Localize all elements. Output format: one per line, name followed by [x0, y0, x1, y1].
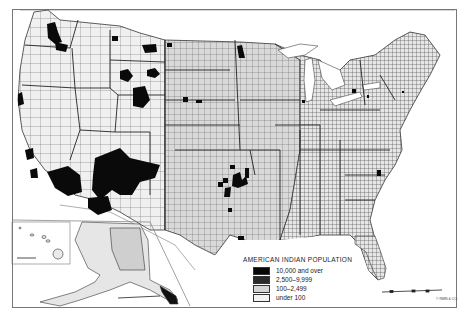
scale-bar: [382, 290, 442, 293]
legend-title: AMERICAN INDIAN POPULATION: [243, 256, 352, 263]
western-us: [18, 10, 165, 230]
hawaii-inset: [12, 222, 70, 264]
legend-item-under-100: under 100: [253, 293, 352, 302]
legend-item-2500-9999: 2,500–9,999: [253, 275, 352, 284]
legend-label: 100–2,499: [276, 285, 307, 292]
legend-swatch: [253, 294, 270, 302]
legend-item-10000-over: 10,000 and over: [253, 266, 352, 275]
legend-label: under 100: [276, 294, 305, 301]
legend-label: 10,000 and over: [276, 267, 323, 274]
legend-item-100-2499: 100–2,499: [253, 284, 352, 293]
legend-swatch: [253, 267, 270, 275]
map-legend: AMERICAN INDIAN POPULATION 10,000 and ov…: [243, 256, 352, 302]
legend-label: 2,500–9,999: [276, 276, 312, 283]
us-county-map: [0, 0, 467, 313]
legend-swatch: [253, 285, 270, 293]
map-credit: © RMN & CO.: [436, 297, 458, 301]
legend-swatch: [253, 276, 270, 284]
